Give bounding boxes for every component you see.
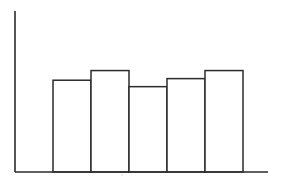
bar-1 [53, 80, 91, 172]
bar-chart [0, 0, 285, 181]
scan-speck [121, 174, 122, 175]
bar-5 [205, 71, 243, 172]
bar-2 [91, 71, 129, 172]
bar-4 [167, 79, 205, 172]
bars-group [53, 71, 243, 172]
bar-3 [129, 87, 167, 172]
